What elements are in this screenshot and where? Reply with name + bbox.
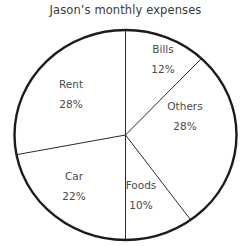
pie-label-car: Car22% xyxy=(34,171,114,201)
pie-label-rent: Rent28% xyxy=(31,79,111,109)
pie-label-bills: Bills12% xyxy=(123,44,203,74)
pie-label-value: 28% xyxy=(31,99,111,110)
pie-label-name: Car xyxy=(34,171,114,182)
pie-label-value: 28% xyxy=(145,121,225,132)
pie-label-value: 10% xyxy=(101,200,181,211)
pie-chart-figure: Jason’s monthly expenses Bills12%Others2… xyxy=(0,0,251,246)
pie-label-value: 12% xyxy=(123,64,203,75)
pie-label-others: Others28% xyxy=(145,101,225,131)
pie-label-name: Others xyxy=(145,101,225,112)
pie-label-value: 22% xyxy=(34,191,114,202)
pie-label-name: Bills xyxy=(123,44,203,55)
pie-label-name: Rent xyxy=(31,79,111,90)
